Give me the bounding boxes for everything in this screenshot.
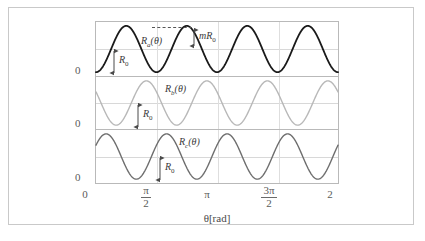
mr0-label: mR0 <box>199 30 216 44</box>
r0-label-b-sub: 0 <box>149 114 153 122</box>
x-tick-3pi-over-2-denominator: 2 <box>261 198 276 210</box>
figure-frame: Ra(θ) Rb(θ) Rc(θ) <box>8 7 414 225</box>
x-tick-3pi-over-2-numerator: 3π <box>261 185 276 198</box>
y-zero-label-a: 0 <box>75 64 81 76</box>
panel-b <box>95 76 339 130</box>
curve-label-c-tail: (θ) <box>188 136 200 147</box>
x-tick-pi: π <box>197 188 217 200</box>
r0-arrow-b <box>133 101 143 131</box>
r0-label-c: R0 <box>165 161 175 175</box>
mr0-arrow <box>189 26 199 50</box>
y-zero-label-c: 0 <box>75 171 81 183</box>
x-tick-3pi-over-2: 3π 2 <box>256 185 282 209</box>
r0-arrow-c <box>155 154 165 184</box>
plot-area: Ra(θ) Rb(θ) Rc(θ) <box>95 21 339 184</box>
curve-label-c: Rc(θ) <box>179 136 200 150</box>
curve-c <box>96 130 338 183</box>
x-tick-3pi-over-2-fraction: 3π 2 <box>261 185 276 209</box>
curve-label-b: Rb(θ) <box>165 83 186 97</box>
curve-label-a-tail: (θ) <box>151 35 163 46</box>
curve-a <box>96 22 338 76</box>
figure-root: Ra(θ) Rb(θ) Rc(θ) <box>0 0 425 241</box>
mr0-label-sub: 0 <box>212 36 216 44</box>
curve-label-a: Ra(θ) <box>141 35 162 49</box>
x-tick-0-label: 0 <box>82 188 88 200</box>
panel-a <box>95 21 339 77</box>
y-zero-label-b: 0 <box>75 117 81 129</box>
mr0-label-main: mR <box>199 30 212 41</box>
r0-label-b: R0 <box>143 108 153 122</box>
x-tick-pi-over-2-numerator: π <box>141 185 151 198</box>
x-tick-pi-over-2-fraction: π 2 <box>141 185 151 209</box>
x-tick-pi-over-2: π 2 <box>136 185 156 209</box>
panel-c <box>95 129 339 184</box>
x-tick-2pi: 2 <box>320 188 340 200</box>
x-tick-pi-over-2-denominator: 2 <box>141 198 151 210</box>
x-tick-2pi-label: 2 <box>327 188 333 200</box>
x-axis-caption: θ[rad] <box>167 212 267 224</box>
r0-label-a-sub: 0 <box>125 60 129 68</box>
r0-arrow-a <box>109 47 119 77</box>
x-tick-0: 0 <box>75 188 95 200</box>
curve-label-b-tail: (θ) <box>175 83 187 94</box>
r0-label-a: R0 <box>119 54 129 68</box>
mr0-reference-line <box>152 27 192 28</box>
x-tick-pi-label: π <box>204 188 210 200</box>
r0-label-c-sub: 0 <box>171 167 175 175</box>
